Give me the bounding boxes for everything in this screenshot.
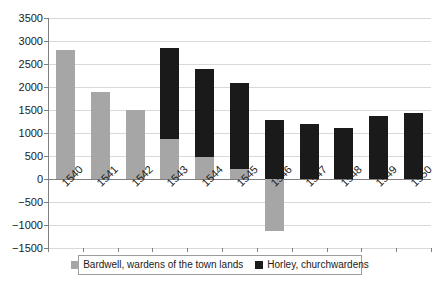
bar-group-1544[interactable] [195, 0, 214, 289]
x-tick-mark-1542 [118, 248, 119, 252]
x-tick-mark-1546 [257, 248, 258, 252]
chart-container: 3500300025002000150010005000−500−1000−15… [0, 0, 439, 289]
y-tick-label--1000: −1000 [1, 220, 43, 231]
y-tick-label-1000: 1000 [1, 128, 43, 139]
bar-group-1542[interactable] [126, 0, 145, 289]
legend-swatch-icon [71, 261, 79, 269]
y-tick-mark--1500 [44, 248, 48, 249]
x-tick-mark-1550 [396, 248, 397, 252]
y-tick-mark--1000 [44, 225, 48, 226]
y-tick-mark-1000 [44, 133, 48, 134]
x-tick-mark-1547 [292, 248, 293, 252]
y-tick-mark-3000 [44, 41, 48, 42]
y-axis-tick-labels: 3500300025002000150010005000−500−1000−15… [0, 0, 43, 289]
chart-legend: Bardwell, wardens of the town landsHorle… [78, 255, 362, 275]
bar-group-1547[interactable] [300, 0, 319, 289]
bar-segment-1545-horley[interactable] [230, 83, 249, 169]
bar-group-1543[interactable] [160, 0, 179, 289]
legend-entry-bardwell[interactable]: Bardwell, wardens of the town lands [71, 260, 243, 270]
y-tick-mark-2500 [44, 64, 48, 65]
y-tick-label-1500: 1500 [1, 105, 43, 116]
x-tick-mark-1543 [152, 248, 153, 252]
y-tick-mark-1500 [44, 110, 48, 111]
legend-label: Horley, churchwardens [267, 260, 369, 270]
bar-group-1540[interactable] [56, 0, 75, 289]
y-axis-line [48, 18, 49, 248]
y-tick-label--1500: −1500 [1, 243, 43, 254]
x-tick-mark-1549 [361, 248, 362, 252]
y-tick-label-0: 0 [1, 174, 43, 185]
y-tick-label-2500: 2500 [1, 59, 43, 70]
bar-group-1549[interactable] [369, 0, 388, 289]
y-tick-label-3000: 3000 [1, 36, 43, 47]
y-tick-mark-500 [44, 156, 48, 157]
bar-group-1541[interactable] [91, 0, 110, 289]
bar-group-1550[interactable] [404, 0, 423, 289]
y-tick-mark-0 [44, 179, 48, 180]
x-tick-mark-end [431, 248, 432, 252]
x-tick-mark-1540 [48, 248, 49, 252]
y-tick-label-500: 500 [1, 151, 43, 162]
y-tick-label-2000: 2000 [1, 82, 43, 93]
y-tick-mark-2000 [44, 87, 48, 88]
x-tick-mark-1545 [222, 248, 223, 252]
x-tick-mark-1541 [83, 248, 84, 252]
y-tick-mark--500 [44, 202, 48, 203]
y-tick-mark-3500 [44, 18, 48, 19]
x-tick-mark-1548 [327, 248, 328, 252]
bar-segment-1543-horley[interactable] [160, 48, 179, 139]
bar-segment-1544-horley[interactable] [195, 69, 214, 157]
bar-group-1546[interactable] [265, 0, 284, 289]
y-tick-label-3500: 3500 [1, 13, 43, 24]
bar-segment-1540-bardwell[interactable] [56, 50, 75, 179]
legend-entry-horley[interactable]: Horley, churchwardens [255, 260, 369, 270]
y-tick-label--500: −500 [1, 197, 43, 208]
bar-group-1548[interactable] [334, 0, 353, 289]
x-tick-mark-1544 [187, 248, 188, 252]
legend-swatch-icon [255, 261, 263, 269]
legend-label: Bardwell, wardens of the town lands [83, 260, 243, 270]
bar-group-1545[interactable] [230, 0, 249, 289]
